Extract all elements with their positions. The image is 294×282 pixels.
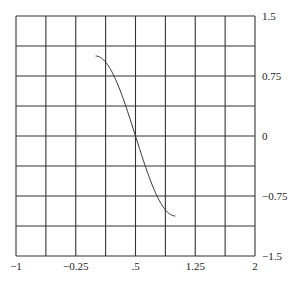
- y-tick-label: −0.75: [262, 190, 288, 202]
- x-axis-tick-labels: −1−0.25.51.252: [10, 260, 258, 272]
- y-tick-label: 0.75: [262, 70, 282, 82]
- y-axis-tick-labels: 1.50.750−0.75−1.5: [262, 10, 288, 262]
- x-tick-label: .5: [131, 260, 140, 272]
- x-tick-label: 1.25: [186, 260, 206, 272]
- y-tick-label: 0: [262, 130, 268, 142]
- y-tick-label: −1.5: [262, 250, 282, 262]
- line-chart: −1−0.25.51.252 1.50.750−0.75−1.5: [0, 0, 294, 282]
- x-tick-label: −1: [10, 260, 22, 272]
- x-tick-label: 2: [252, 260, 258, 272]
- x-tick-label: −0.25: [63, 260, 89, 272]
- y-tick-label: 1.5: [262, 10, 276, 22]
